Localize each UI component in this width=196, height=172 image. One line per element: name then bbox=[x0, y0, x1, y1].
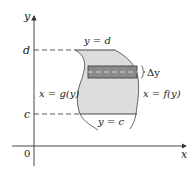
label-left-curve: x = g(y) bbox=[39, 88, 79, 99]
tick-label-c: c bbox=[24, 108, 30, 121]
label-right-curve: x = f(y) bbox=[143, 88, 181, 99]
label-bottom-boundary: y = c bbox=[97, 116, 124, 127]
label-top-boundary: y = d bbox=[83, 35, 111, 46]
shaded-region bbox=[75, 50, 139, 114]
delta-y-label: Δy bbox=[147, 67, 160, 78]
y-axis-label: y bbox=[23, 10, 31, 23]
origin-label: 0 bbox=[24, 148, 30, 159]
x-axis-label: x bbox=[181, 148, 188, 161]
tick-label-d: d bbox=[23, 44, 30, 57]
delta-y-brace-icon bbox=[141, 66, 145, 78]
region-diagram: y x 0 d c y = d y = c x = g(y) x = f(y) … bbox=[0, 0, 196, 172]
